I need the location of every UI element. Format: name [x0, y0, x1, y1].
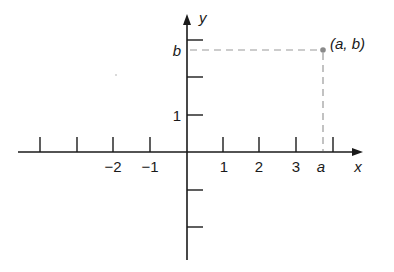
y-special-label: b: [173, 42, 181, 59]
y-axis: [183, 14, 203, 260]
y-axis-arrow-icon: [183, 14, 191, 25]
projection-lines: [190, 50, 323, 151]
x-tick-label-2: 2: [255, 158, 263, 175]
x-axis: [18, 137, 363, 156]
point-label: (a, b): [330, 35, 365, 52]
y-tick-label-1: 1: [173, 107, 181, 124]
y-axis-label: y: [198, 9, 208, 26]
x-special-label: a: [317, 158, 325, 175]
cartesian-diagram: a x y b 1 −2 −1 1 2 3 (a, b): [0, 0, 394, 272]
x-axis-arrow-icon: [352, 148, 363, 156]
speck: [115, 74, 116, 75]
x-tick-label-neg2: −2: [104, 158, 121, 175]
x-axis-label: x: [353, 158, 362, 175]
x-tick-label-1: 1: [220, 158, 228, 175]
x-tick-label-neg1: −1: [141, 158, 158, 175]
point-a-b: [320, 47, 326, 53]
x-tick-label-3: 3: [292, 158, 300, 175]
